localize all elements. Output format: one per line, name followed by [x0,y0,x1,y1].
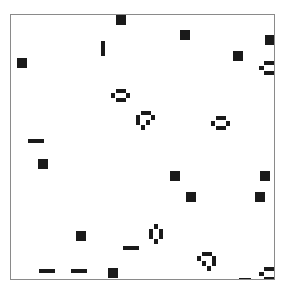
live-cell[interactable] [136,120,140,125]
live-cell[interactable] [141,125,145,130]
live-cell[interactable] [116,89,126,93]
live-cell[interactable] [123,246,139,250]
live-cell[interactable] [264,267,275,271]
live-cell[interactable] [170,171,180,181]
live-cell[interactable] [197,256,201,261]
live-cell[interactable] [216,116,226,120]
live-cell[interactable] [264,71,275,75]
live-cell[interactable] [259,66,264,70]
live-cell[interactable] [111,93,115,98]
live-cell[interactable] [116,98,126,102]
live-cell[interactable] [212,261,216,266]
live-cell[interactable] [180,30,190,40]
live-cell[interactable] [211,121,215,126]
live-cell[interactable] [264,61,275,65]
live-cell[interactable] [17,58,27,68]
live-cell[interactable] [259,272,264,276]
live-cell[interactable] [260,171,270,181]
live-cell[interactable] [39,269,55,273]
live-cell[interactable] [233,51,243,61]
live-cell[interactable] [154,224,158,229]
live-cell[interactable] [149,229,153,239]
live-cell[interactable] [76,231,86,241]
live-cell[interactable] [126,93,130,98]
live-cell[interactable] [186,192,196,202]
live-cell[interactable] [264,277,275,280]
live-cell[interactable] [226,121,230,126]
live-cell[interactable] [108,268,118,278]
live-cell[interactable] [116,15,126,25]
live-cell[interactable] [239,278,251,280]
live-cell[interactable] [141,111,151,115]
live-cell[interactable] [101,41,105,56]
live-cell[interactable] [265,35,275,45]
live-cell[interactable] [146,120,150,125]
live-cell[interactable] [154,239,158,244]
live-cell[interactable] [71,269,87,273]
live-cell[interactable] [255,192,265,202]
live-cell[interactable] [207,266,211,271]
live-cell[interactable] [28,139,44,143]
live-cell[interactable] [202,261,206,266]
live-cell[interactable] [159,229,163,239]
live-cell[interactable] [38,159,48,169]
live-cell[interactable] [151,115,155,120]
game-board[interactable] [10,14,275,280]
live-cell[interactable] [202,252,212,256]
live-cell[interactable] [216,126,226,130]
